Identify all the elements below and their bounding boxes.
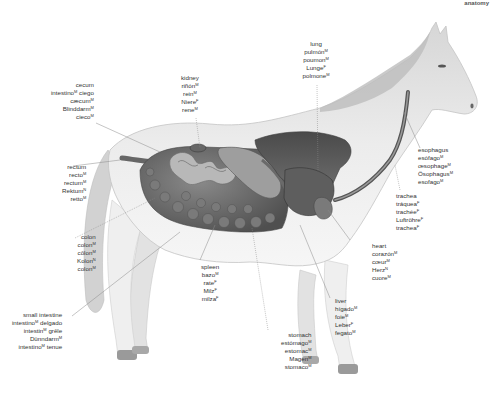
label-kidney: kidney riñónM reinM NiereF reneM: [181, 74, 199, 114]
label-trachea: trachea tráqueaF trachéeF LuftröhreF tra…: [396, 192, 423, 232]
label-spleen: spleen bazoM rateF MilzF milzaF: [201, 263, 219, 303]
label-colon: colon colonM côlonM KolonN colonM: [77, 233, 96, 273]
label-small-intestine: small intestine intestinoM delgado intes…: [12, 311, 62, 351]
label-liver: liver hígadoM foieM LeberF fegatoM: [335, 297, 357, 337]
label-esophagus: esophagus esófagoM œsophageM ÖsophagusM …: [418, 146, 453, 186]
label-stomach: stomach estómagoM estomacM MagenM stomac…: [281, 331, 312, 371]
label-rectum: rectum rectoM rectumM RektumN rettoM: [62, 163, 86, 203]
label-heart: heart corazónM cœurM HerzN cuoreM: [372, 242, 397, 282]
label-cecum: cecum intestinoM ciego cæcumM BlinddarmM…: [51, 81, 94, 121]
label-lung: lung pulmónM poumonM LungeF polmoneM: [303, 40, 330, 80]
kidney-organ: [190, 144, 206, 152]
